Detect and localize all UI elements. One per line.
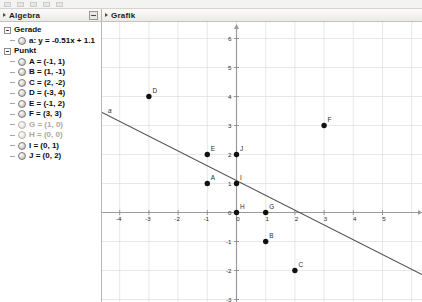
- list-item[interactable]: a: y = -0.51x + 1.1: [3, 36, 101, 47]
- plot-point-F[interactable]: [321, 123, 326, 128]
- y-axis-tick-label: 5: [228, 64, 232, 71]
- visibility-toggle-icon[interactable]: [18, 110, 26, 118]
- y-axis-tick-label: -2: [226, 267, 232, 274]
- plot-point-label-E: E: [211, 145, 215, 152]
- tree-branch-icon: [10, 93, 15, 94]
- list-item[interactable]: G = (1, 0): [3, 120, 101, 131]
- list-item[interactable]: H = (0, 0): [3, 130, 101, 141]
- x-axis-tick-label: 4: [353, 215, 357, 222]
- plot-point-label-B: B: [269, 232, 273, 239]
- y-axis-tick-label: -3: [226, 296, 232, 302]
- graphics-panel-header[interactable]: Grafik: [102, 9, 422, 22]
- panes: Algebra Gerade a: y = -0.51x + 1.1: [0, 9, 422, 302]
- tree-branch-icon: [10, 114, 15, 115]
- x-axis-arrow-icon: [418, 210, 422, 215]
- plot-point-D[interactable]: [146, 94, 151, 99]
- algebra-panel-title: Algebra: [9, 11, 86, 20]
- visibility-toggle-icon[interactable]: [18, 152, 26, 160]
- y-axis-tick-label: 2: [228, 151, 232, 158]
- list-item-label: G = (1, 0): [29, 120, 63, 131]
- y-axis-tick-label: 4: [228, 93, 232, 100]
- y-axis-tick-label: 1: [228, 180, 232, 187]
- tree-item-list: a: y = -0.51x + 1.1: [3, 36, 101, 47]
- list-item[interactable]: C = (2, -2): [3, 78, 101, 89]
- algebra-panel-header[interactable]: Algebra: [0, 9, 101, 22]
- tree-group-label: Punkt: [14, 46, 36, 57]
- visibility-toggle-icon[interactable]: [18, 131, 26, 139]
- plot-svg[interactable]: -4-3-2-1012345-3-2-10123456aABCDEFGHIJ: [102, 22, 422, 302]
- list-item[interactable]: F = (3, 3): [3, 109, 101, 120]
- list-item[interactable]: I = (0, 1): [3, 141, 101, 152]
- minimize-button[interactable]: [89, 11, 98, 20]
- toolbar[interactable]: [0, 0, 422, 9]
- list-item-label: B = (1, -1): [29, 67, 65, 78]
- tree-branch-icon: [10, 124, 15, 125]
- y-axis-arrow-icon: [234, 24, 239, 29]
- list-item[interactable]: J = (0, 2): [3, 151, 101, 162]
- tool-icon-4[interactable]: [43, 2, 50, 7]
- visibility-toggle-icon[interactable]: [18, 100, 26, 108]
- plot-point-H[interactable]: [234, 210, 239, 215]
- tree-branch-icon: [10, 156, 15, 157]
- tree-branch-icon: [10, 61, 15, 62]
- plot-point-E[interactable]: [205, 152, 210, 157]
- tree-item-list: A = (-1, 1) B = (1, -1) C = (2, -2): [3, 57, 101, 162]
- x-axis-tick-label: -1: [204, 215, 210, 222]
- visibility-toggle-icon[interactable]: [18, 79, 26, 87]
- plot-point-label-C: C: [298, 261, 303, 268]
- triangle-right-icon[interactable]: [3, 13, 6, 17]
- collapse-toggle-icon[interactable]: [4, 27, 11, 34]
- tree-branch-icon: [10, 103, 15, 104]
- plot-point-label-J: J: [240, 145, 243, 152]
- visibility-toggle-icon[interactable]: [18, 89, 26, 97]
- plot-point-J[interactable]: [234, 152, 239, 157]
- list-item-label: H = (0, 0): [29, 130, 63, 141]
- plot-point-A[interactable]: [205, 181, 210, 186]
- visibility-toggle-icon[interactable]: [18, 58, 26, 66]
- list-item[interactable]: E = (-1, 2): [3, 99, 101, 110]
- tool-icon-2[interactable]: [17, 2, 24, 7]
- y-axis-tick-label: 0: [228, 209, 232, 216]
- tool-icon-5[interactable]: [56, 2, 63, 7]
- algebra-tree[interactable]: Gerade a: y = -0.51x + 1.1 Punkt: [0, 22, 101, 162]
- x-axis-tick-label: 5: [382, 215, 386, 222]
- plot-point-G[interactable]: [263, 210, 268, 215]
- x-axis-tick-label: 0: [236, 215, 240, 222]
- coordinate-plane[interactable]: -4-3-2-1012345-3-2-10123456aABCDEFGHIJ: [102, 22, 422, 302]
- triangle-right-icon[interactable]: [105, 13, 108, 17]
- tool-icon-1[interactable]: [4, 2, 11, 7]
- plot-point-B[interactable]: [263, 239, 268, 244]
- y-axis-tick-label: 3: [228, 122, 232, 129]
- tree-group-header[interactable]: Punkt: [3, 46, 101, 57]
- visibility-toggle-icon[interactable]: [18, 142, 26, 150]
- list-item-label: E = (-1, 2): [29, 99, 65, 110]
- list-item-label: D = (-3, 4): [29, 88, 65, 99]
- tool-icon-3[interactable]: [30, 2, 37, 7]
- plot-point-C[interactable]: [292, 268, 297, 273]
- plot-point-label-A: A: [211, 174, 216, 181]
- tree-branch-icon: [10, 82, 15, 83]
- x-axis-tick-label: -4: [116, 215, 122, 222]
- visibility-toggle-icon[interactable]: [18, 121, 26, 129]
- line-a[interactable]: [102, 112, 422, 274]
- tree-group-header[interactable]: Gerade: [3, 25, 101, 36]
- visibility-toggle-icon[interactable]: [18, 68, 26, 76]
- list-item[interactable]: B = (1, -1): [3, 67, 101, 78]
- graphics-panel: Grafik -4-3-2-1012345-3-2-10123456aABCDE…: [102, 9, 422, 302]
- x-axis-tick-label: 1: [265, 215, 269, 222]
- visibility-toggle-icon[interactable]: [18, 37, 26, 45]
- list-item-label: I = (0, 1): [29, 141, 59, 152]
- list-item-label: C = (2, -2): [29, 78, 65, 89]
- x-axis-tick-label: 3: [324, 215, 328, 222]
- plot-point-I[interactable]: [234, 181, 239, 186]
- plot-point-label-F: F: [328, 116, 332, 123]
- y-axis-tick-label: 6: [228, 35, 232, 42]
- x-axis-tick-label: -2: [174, 215, 180, 222]
- list-item-label: J = (0, 2): [29, 151, 61, 162]
- collapse-toggle-icon[interactable]: [4, 48, 11, 55]
- list-item[interactable]: A = (-1, 1): [3, 57, 101, 68]
- tree-group-gerade: Gerade a: y = -0.51x + 1.1: [3, 25, 101, 46]
- graphics-panel-title: Grafik: [111, 11, 419, 20]
- tree-branch-icon: [10, 72, 15, 73]
- list-item[interactable]: D = (-3, 4): [3, 88, 101, 99]
